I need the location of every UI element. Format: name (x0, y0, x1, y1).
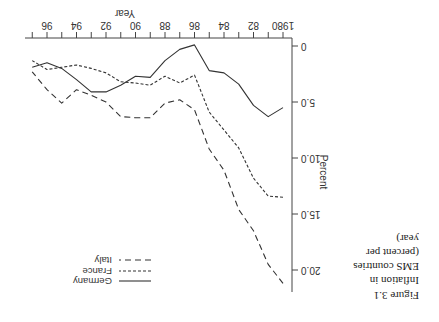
x-tick-label: 96 (41, 20, 53, 31)
x-tick-label: 90 (130, 20, 142, 31)
x-tick-label: 92 (100, 20, 112, 31)
x-axis-label: Year (114, 8, 135, 19)
y-tick-label: 5.0 (301, 97, 315, 108)
figure-label: Figure 3.1 (374, 290, 419, 302)
x-tick-label: 82 (248, 20, 260, 31)
x-tick-label: 94 (71, 20, 83, 31)
x-tick-label: 1980 (271, 20, 294, 31)
x-axis-ticks: 19808284868890929496 (32, 20, 294, 38)
caption-line-1: Inflation in (369, 275, 419, 287)
caption-line-2: EMS countries (353, 261, 419, 273)
x-tick-label: 86 (189, 20, 201, 31)
inflation-line-chart: Figure 3.1 Inflation in EMS countries (p… (0, 0, 439, 322)
france-series-line (32, 61, 283, 198)
caption-line-3: (percent per (366, 246, 419, 259)
y-tick-label: 20.0 (301, 265, 321, 276)
legend-italy-label: Italy (94, 255, 112, 266)
legend: Germany France Italy (73, 255, 151, 287)
germany-series-line (32, 45, 283, 117)
legend-france-label: France (82, 266, 112, 277)
y-tick-label: 0 (301, 41, 307, 52)
figure-caption: Figure 3.1 Inflation in EMS countries (p… (353, 232, 419, 302)
italy-series-line (32, 72, 283, 284)
figure-page: Figure 3.1 Inflation in EMS countries (p… (0, 0, 439, 322)
y-tick-label: 10.0 (301, 153, 321, 164)
caption-line-4: year) (396, 232, 419, 245)
figure-label-text: Figure 3.1 (374, 290, 419, 302)
x-tick-label: 88 (159, 20, 171, 31)
y-tick-label: 15.0 (301, 209, 321, 220)
legend-germany-label: Germany (73, 276, 112, 287)
y-axis-label: Percent (318, 155, 329, 190)
y-axis-ticks: 05.010.015.020.0 (292, 41, 320, 276)
x-tick-label: 84 (218, 20, 230, 31)
